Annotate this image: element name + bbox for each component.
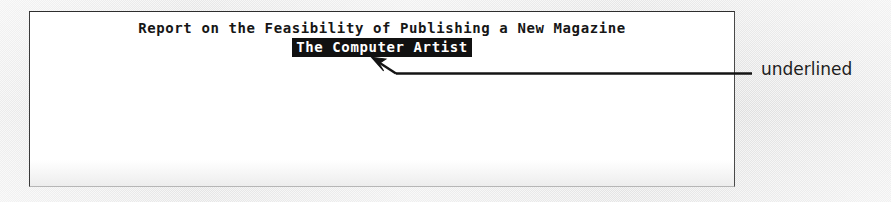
document-panel: Report on the Feasibility of Publishing …	[29, 11, 735, 187]
annotation-label-underlined: underlined	[761, 59, 852, 80]
figure-canvas: Report on the Feasibility of Publishing …	[0, 0, 891, 202]
panel-scan-haze	[30, 160, 734, 186]
document-title-line: Report on the Feasibility of Publishing …	[30, 20, 734, 36]
document-text-block: Report on the Feasibility of Publishing …	[30, 20, 734, 57]
document-subtitle-row: The Computer Artist	[30, 38, 734, 57]
document-subtitle-highlighted: The Computer Artist	[292, 38, 472, 57]
